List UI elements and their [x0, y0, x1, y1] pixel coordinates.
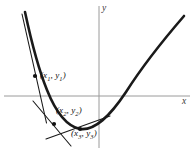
point-label-p1-close: )	[63, 70, 66, 80]
point-dot-p2	[52, 122, 56, 126]
point-label-p3: (x3, y3)	[71, 129, 97, 140]
tangent-line-p1	[22, 14, 47, 123]
point-label-p2: (x2, y2)	[56, 106, 82, 117]
newton-method-diagram	[0, 0, 194, 151]
point-dot-p1	[33, 74, 37, 78]
point-label-p3-close: )	[94, 128, 97, 138]
y-axis-label: y	[102, 4, 106, 14]
figure-container: y x (x1, y1) (x2, y2) (x3, y3)	[0, 0, 194, 151]
x-axis-label: x	[182, 97, 186, 107]
point-label-p2-close: )	[79, 105, 82, 115]
point-label-p1: (x1, y1)	[40, 71, 66, 82]
